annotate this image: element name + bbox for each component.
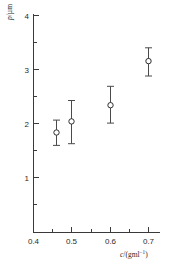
svg-text:c/(gml−1): c/(gml−1) [120, 249, 148, 259]
scatter-plot: 4 3 2 1 0.4 0.5 0.6 0.7 p/µm c/(gml−1) [0, 0, 171, 266]
chart-page: 4 3 2 1 0.4 0.5 0.6 0.7 p/µm c/(gml−1) [0, 0, 171, 266]
y-axis-title: p/µm [5, 4, 14, 21]
marker-3 [108, 103, 113, 108]
y-tick-label-2: 2 [25, 120, 30, 129]
x-axis-title-close: ) [145, 250, 148, 259]
x-tick-label-0-5: 0.5 [66, 237, 78, 246]
data-point-1 [53, 120, 60, 145]
x-axis-title-unit: gml [128, 250, 140, 259]
x-axis-title: c/(gml−1) [120, 249, 148, 259]
marker-4 [146, 58, 151, 63]
y-tick-label-3: 3 [25, 66, 30, 75]
data-point-4 [145, 48, 152, 76]
marker-1 [54, 130, 59, 135]
x-tick-label-0-7: 0.7 [143, 237, 155, 246]
marker-2 [69, 119, 74, 124]
data-point-3 [107, 86, 114, 123]
y-tick-label-4: 4 [25, 12, 30, 21]
y-axis-title-unit: µm [5, 4, 14, 14]
x-tick-label-0-4: 0.4 [28, 237, 40, 246]
y-tick-label-1: 1 [25, 174, 30, 183]
data-point-2 [68, 101, 75, 144]
x-tick-label-0-6: 0.6 [105, 237, 117, 246]
svg-text:p/µm: p/µm [5, 4, 14, 21]
